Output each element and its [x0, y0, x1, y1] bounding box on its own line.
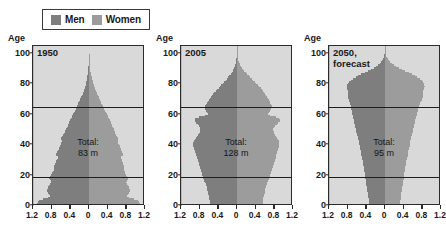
bar-women	[237, 98, 268, 100]
panel-title: 1950	[37, 48, 58, 59]
bar-women	[237, 73, 247, 75]
bar-men	[352, 113, 385, 115]
bar-men	[220, 86, 237, 88]
bar-women	[89, 134, 116, 136]
x-tick-0.4: 0.4	[359, 210, 371, 220]
bar-men	[54, 166, 89, 168]
bar-women	[237, 83, 256, 85]
bar-men	[364, 166, 385, 168]
bar-men	[199, 162, 238, 164]
reference-line-age-19	[33, 177, 143, 178]
bar-men	[209, 195, 237, 197]
x-tick-mark	[144, 205, 145, 209]
bar-men	[47, 191, 89, 193]
bar-men	[209, 197, 237, 199]
bar-men	[54, 169, 89, 171]
bar-women	[385, 160, 406, 162]
bar-women	[385, 61, 390, 63]
x-tick-mark	[51, 205, 52, 209]
bar-men	[208, 113, 237, 115]
x-tick-1.2: 1.2	[322, 210, 334, 220]
y-tick-100: 100	[4, 48, 30, 58]
bar-women	[385, 169, 405, 171]
bar-women	[237, 99, 269, 101]
bar-men	[365, 72, 385, 74]
bar-women	[237, 80, 253, 82]
bar-women	[89, 186, 129, 188]
bar-men	[363, 162, 385, 164]
bar-men	[209, 198, 237, 200]
bar-women	[89, 163, 123, 165]
bar-women	[385, 76, 417, 78]
bar-women	[237, 134, 275, 136]
bar-men	[356, 128, 385, 130]
bar-men	[66, 128, 89, 130]
bar-men	[67, 127, 89, 129]
bar-women	[385, 183, 403, 185]
bar-men	[82, 95, 89, 97]
bar-women	[237, 179, 269, 181]
bar-women	[385, 80, 422, 82]
bar-men	[348, 98, 385, 100]
bar-men	[212, 95, 237, 97]
x-tick-0.4: 0.4	[249, 210, 261, 220]
bar-men	[208, 101, 237, 103]
bar-women	[385, 64, 394, 66]
legend-item-men: Men	[51, 14, 85, 25]
bar-women	[237, 169, 272, 171]
bar-women	[237, 133, 274, 135]
x-tick-mark	[88, 205, 89, 209]
bar-men	[365, 174, 385, 176]
plot-area: 2005 Total: 128 m	[180, 45, 292, 205]
bar-women	[385, 90, 423, 92]
bar-men	[206, 104, 237, 106]
legend: Men Women	[42, 9, 150, 30]
y-axis-title: Age	[304, 33, 321, 43]
bar-women	[237, 116, 276, 118]
bar-women	[237, 118, 279, 120]
bar-women	[385, 163, 406, 165]
bar-women	[385, 69, 402, 71]
bar-men	[195, 118, 237, 120]
bar-men	[366, 185, 385, 187]
bar-men	[76, 108, 89, 110]
bar-women	[237, 69, 243, 71]
bar-women	[237, 162, 274, 164]
bar-men	[208, 192, 237, 194]
x-tick-mark	[292, 205, 293, 209]
bar-men	[80, 98, 89, 100]
bar-men	[68, 124, 89, 126]
bar-women	[237, 58, 238, 60]
bar-women	[385, 182, 403, 184]
bar-women	[89, 191, 130, 193]
bar-men	[81, 96, 89, 98]
bar-women	[385, 93, 423, 95]
bar-men	[200, 127, 237, 129]
bar-women	[385, 95, 423, 97]
bar-men	[374, 67, 385, 69]
bar-women	[237, 86, 259, 88]
bar-women	[237, 63, 240, 65]
bar-women	[385, 81, 423, 83]
bar-men	[48, 188, 89, 190]
bar-men	[49, 194, 89, 196]
bar-men	[48, 197, 89, 199]
bar-men	[211, 96, 237, 98]
bar-women	[385, 86, 425, 88]
bar-men	[355, 125, 385, 127]
reference-line-age-65	[181, 107, 291, 108]
bar-women	[385, 92, 423, 94]
bar-men	[348, 90, 385, 92]
bar-women	[237, 75, 249, 77]
bar-women	[237, 163, 274, 165]
x-tick-0: 0	[86, 210, 91, 220]
y-tick-80: 80	[300, 78, 326, 88]
bar-men	[50, 183, 89, 185]
bar-men	[347, 84, 385, 86]
bar-men	[207, 102, 237, 104]
bar-women	[89, 168, 124, 170]
bar-women	[89, 172, 125, 174]
bar-men	[367, 188, 385, 190]
bar-men	[201, 171, 237, 173]
x-tick-0.8: 0.8	[45, 210, 57, 220]
